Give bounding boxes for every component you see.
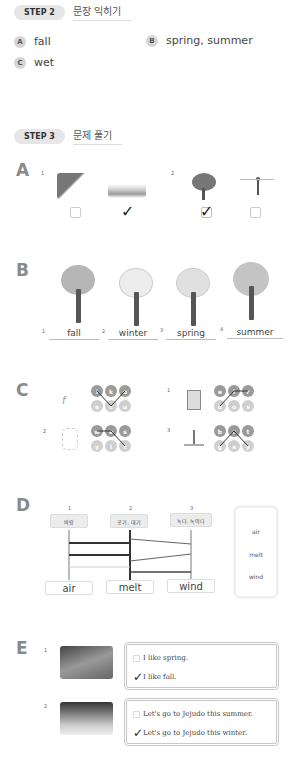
d3-korean: 녹다, 녹이다	[170, 513, 212, 527]
d2-english: melt	[106, 580, 154, 594]
e1-choice-1-checkbox[interactable]	[133, 655, 140, 662]
word-bank-item: wind	[236, 573, 276, 580]
word-bank: air melt wind	[234, 506, 278, 598]
e2-num: 2	[44, 703, 47, 709]
e1-num: 1	[44, 647, 47, 653]
e2-choice-2[interactable]: ✓ Let's go to Jejudo this winter.	[133, 726, 247, 740]
e2-choice-2-check-icon[interactable]: ✓	[133, 726, 140, 740]
e2-choice-1[interactable]: Let's go to Jejudo this summer.	[133, 710, 253, 718]
d3-num: 3	[190, 505, 193, 511]
d1-english: air	[45, 581, 93, 595]
e1-choice-2[interactable]: ✓ I like fall.	[133, 670, 177, 684]
e2-choice-1-checkbox[interactable]	[133, 711, 140, 718]
e1-choice-1[interactable]: I like spring.	[133, 654, 188, 662]
word-bank-item: air	[236, 528, 276, 535]
d3-english: wind	[167, 579, 215, 593]
e1-choice-box: I like spring. ✓ I like fall.	[124, 642, 279, 690]
d2-korean: 공기, 대기	[110, 514, 148, 528]
word-bank-item: melt	[236, 551, 276, 558]
e2-choice-1-text: Let's go to Jejudo this summer.	[143, 710, 253, 718]
e1-choice-1-text: I like spring.	[143, 654, 188, 662]
e2-choice-box: Let's go to Jejudo this summer. ✓ Let's …	[124, 698, 279, 746]
section-e-letter: E	[16, 638, 28, 658]
e1-choice-2-text: I like fall.	[143, 673, 177, 681]
d1-korean: 바람	[50, 514, 88, 528]
e1-choice-2-check-icon[interactable]: ✓	[133, 670, 140, 684]
e1-picture	[60, 646, 113, 679]
section-d-letter: D	[16, 495, 30, 515]
e2-picture	[60, 702, 113, 735]
d2-num: 2	[129, 505, 132, 511]
e2-choice-2-text: Let's go to Jejudo this winter.	[143, 729, 247, 737]
d1-num: 1	[68, 505, 71, 511]
